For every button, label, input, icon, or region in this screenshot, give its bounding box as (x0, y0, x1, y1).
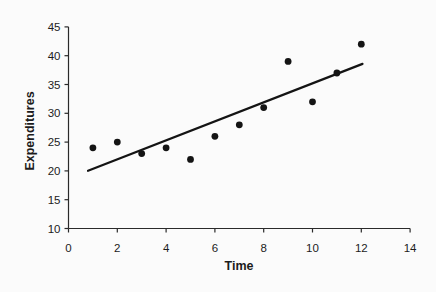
x-tick-label: 0 (65, 242, 71, 254)
x-axis-title: Time (225, 259, 254, 273)
y-tick-label: 40 (48, 50, 61, 62)
chart-canvas: 101520253035404502468101214 Time Expendi… (0, 0, 436, 292)
data-point (334, 70, 341, 77)
y-tick-label: 30 (48, 107, 61, 119)
x-tick-label: 14 (404, 242, 417, 254)
x-tick-label: 6 (212, 242, 218, 254)
data-point (163, 144, 170, 151)
x-tick-label: 4 (163, 242, 170, 254)
tick-labels-layer: 101520253035404502468101214 (48, 21, 417, 254)
data-point (138, 150, 145, 157)
x-tick-label: 2 (114, 242, 120, 254)
data-point (187, 156, 194, 163)
y-tick-label: 10 (48, 223, 61, 235)
data-point (285, 58, 292, 65)
data-point (236, 121, 243, 128)
data-point (358, 41, 365, 48)
trend-line (88, 64, 363, 171)
y-tick-label: 20 (48, 165, 61, 177)
scatter-chart: 101520253035404502468101214 Time Expendi… (0, 0, 436, 292)
data-point (260, 104, 267, 111)
y-axis-title: Expenditures (23, 91, 37, 170)
data-point (114, 139, 121, 146)
x-tick-label: 12 (355, 242, 368, 254)
y-tick-label: 25 (48, 136, 61, 148)
x-tick-label: 8 (260, 242, 266, 254)
x-tick-label: 10 (306, 242, 319, 254)
ticks-layer (65, 27, 411, 233)
data-point (309, 98, 316, 105)
series-layer (88, 41, 365, 171)
y-tick-label: 35 (48, 79, 61, 91)
y-tick-label: 15 (48, 194, 61, 206)
data-point (90, 144, 97, 151)
data-point (212, 133, 219, 140)
y-tick-label: 45 (48, 21, 61, 33)
